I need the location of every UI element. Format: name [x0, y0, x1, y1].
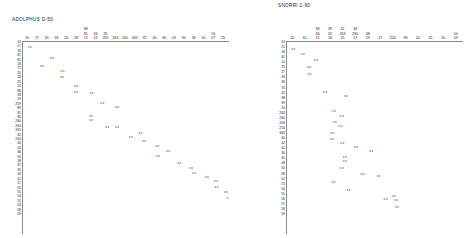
- y-tick-label: 39: [281, 102, 285, 105]
- data-point-marker: xx: [291, 48, 296, 51]
- chart-panel-left: ADOLPHUS D-50 10711618202815818824332592…: [0, 0, 234, 238]
- x-tick-label: 15: [84, 36, 88, 40]
- data-point-marker: xx: [340, 168, 345, 171]
- x-tick-column: 27: [374, 36, 386, 40]
- x-tick-label: 20: [64, 36, 68, 40]
- data-point-marker: xx: [214, 180, 219, 183]
- x-tick-column: 5726036: [349, 27, 361, 40]
- y-tick-label: 18: [281, 51, 285, 54]
- data-point-marker: xx: [332, 110, 337, 113]
- data-point-marker: xx: [61, 70, 66, 73]
- x-tick-column: 2526341: [337, 27, 349, 40]
- y-tick-label: 36: [281, 81, 285, 84]
- y-tick-label: 10: [281, 41, 285, 44]
- data-point-marker: xx: [227, 197, 229, 200]
- data-point-marker: xx: [330, 133, 335, 136]
- x-tick-label: 10: [290, 36, 294, 40]
- data-point-marker: xx: [115, 106, 120, 109]
- y-tick-label: 42: [281, 142, 285, 145]
- data-point-marker: xx: [100, 102, 105, 105]
- data-point-marker: xx: [343, 160, 348, 163]
- data-point-marker: xx: [74, 91, 79, 94]
- x-tick-label: 29: [172, 36, 176, 40]
- data-point-marker: xx: [155, 145, 160, 148]
- x-tick-label: 30: [162, 36, 166, 40]
- data-point-marker: xx: [323, 91, 328, 94]
- data-point-marker: xx: [347, 189, 352, 192]
- data-point-marker: xx: [369, 150, 374, 153]
- x-tick-column: 254: [387, 36, 399, 40]
- x-tick-label: 27: [378, 36, 382, 40]
- y-tick-label: 25: [281, 66, 285, 69]
- y-tick-label: 59: [281, 213, 285, 216]
- data-point-marker: xx: [142, 140, 147, 143]
- x-tick-column: 61: [299, 36, 311, 40]
- x-tick-label: 24: [94, 36, 98, 40]
- y-tick-label: 58: [281, 208, 285, 211]
- y-tick-label: 254: [279, 127, 285, 130]
- x-tick-label: 71: [35, 36, 39, 40]
- x-tick-label: 28: [74, 36, 78, 40]
- x-tick-label: 59: [454, 36, 458, 40]
- data-point-marker: xx: [331, 181, 336, 184]
- y-tick-label: 24: [17, 85, 21, 88]
- data-point-marker: xx: [314, 59, 319, 62]
- scatter-plot-left[interactable]: xxxxxxxxxxxxxxxxxxxxxxxxxxxxxxxxxxxxxxxx…: [22, 41, 229, 234]
- x-tick-column: 50: [437, 36, 449, 40]
- x-tick-label: 18: [328, 36, 332, 40]
- data-point-marker: xx: [384, 199, 389, 202]
- y-tick-label: 27: [281, 71, 285, 74]
- x-tick-column: 2948: [362, 32, 374, 40]
- y-tick-label: 98: [281, 173, 285, 176]
- x-tick-label: 260: [132, 36, 138, 40]
- page-title-right: SNORRI 2-90: [278, 3, 310, 8]
- y-tick-label: 70: [281, 87, 285, 90]
- x-tick-column: 183239: [324, 27, 336, 40]
- data-point-marker: xx: [192, 173, 197, 176]
- x-tick-column: 55: [217, 36, 229, 40]
- data-point-marker: xx: [50, 57, 55, 60]
- data-point-marker: xx: [344, 95, 349, 98]
- x-tick-label: 263: [112, 36, 118, 40]
- data-point-marker: xx: [360, 173, 365, 176]
- dotplot-page: ADOLPHUS D-50 10711618202815818824332592…: [0, 0, 468, 238]
- data-point-marker: xx: [340, 115, 345, 118]
- data-point-marker: xx: [28, 46, 33, 49]
- x-tick-label: 57: [353, 36, 357, 40]
- y-tick-label: 10: [281, 61, 285, 64]
- x-tick-label: 57: [211, 36, 215, 40]
- data-point-marker: xx: [115, 126, 120, 129]
- y-tick-label: 363: [279, 132, 285, 135]
- data-point-marker: xx: [166, 151, 171, 154]
- data-point-marker: xx: [138, 132, 143, 135]
- x-tick-label: 21: [315, 36, 319, 40]
- y-tick-label: 57: [281, 203, 285, 206]
- y-tick-label: 40: [281, 137, 285, 140]
- data-point-marker: xx: [333, 122, 338, 125]
- x-tick-label: 36: [192, 36, 196, 40]
- x-tick-column: 98: [399, 36, 411, 40]
- x-tick-label: 42: [416, 36, 420, 40]
- x-tick-label: 261: [122, 36, 128, 40]
- y-tick-label: 21: [281, 46, 285, 49]
- x-tick-label: 50: [201, 36, 205, 40]
- data-point-marker: xx: [224, 191, 229, 194]
- y-axis-labels-right: 1021186110252734367032383920263260264254…: [273, 41, 285, 233]
- y-tick-label: 52: [281, 178, 285, 181]
- data-point-marker: xx: [338, 125, 343, 128]
- scatter-plot-right[interactable]: xxxxxxxxxxxxxxxxxxxxxxxxxxxxxxxxxxxxxxxx…: [286, 41, 463, 234]
- y-tick-label: 38: [281, 97, 285, 100]
- y-tick-label: 45: [281, 157, 285, 160]
- y-tick-label: 48: [281, 162, 285, 165]
- data-point-marker: xx: [60, 77, 65, 80]
- data-point-marker: xx: [330, 139, 335, 142]
- data-point-marker: xx: [74, 85, 79, 88]
- x-tick-label: 32: [143, 36, 147, 40]
- x-tick-label: 90: [182, 36, 186, 40]
- x-tick-label: 29: [366, 36, 370, 40]
- x-axis-labels-right: 1061213438183239252634157260362948272549…: [286, 14, 462, 40]
- x-tick-label: 10: [25, 36, 29, 40]
- x-tick-label: 40: [152, 36, 156, 40]
- chart-panel-right: SNORRI 2-90 1061213438183239252634157260…: [234, 0, 468, 238]
- data-point-marker: xx: [205, 176, 210, 179]
